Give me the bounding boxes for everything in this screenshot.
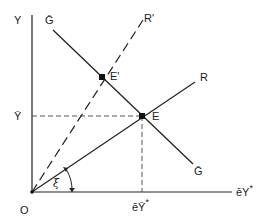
origin-point bbox=[30, 190, 34, 194]
r-prime-label: R' bbox=[144, 12, 154, 24]
angle-xi-label: ξ bbox=[53, 177, 60, 190]
e-prime-label: E' bbox=[110, 70, 119, 82]
y-axis-label: Y bbox=[14, 14, 22, 26]
g-bar-top-label: Ḡ bbox=[45, 14, 54, 26]
y-bar-label: Ȳ bbox=[14, 110, 22, 122]
g-bar-bottom-label: Ḡ bbox=[194, 165, 203, 177]
x-tick-label: ēȲ* bbox=[132, 197, 149, 213]
r-prime-line bbox=[32, 20, 143, 192]
e-label: E bbox=[152, 110, 159, 122]
origin-label: O bbox=[20, 204, 29, 216]
equilibrium-diagram: Y O ēY* Ḡ Ḡ R R' E' E Ȳ ēȲ* ξ bbox=[0, 0, 278, 224]
r-label: R bbox=[200, 71, 208, 83]
r-line bbox=[32, 82, 195, 192]
point-e bbox=[139, 113, 145, 119]
x-axis-label: ēY* bbox=[236, 183, 253, 198]
point-e-prime bbox=[99, 74, 105, 80]
